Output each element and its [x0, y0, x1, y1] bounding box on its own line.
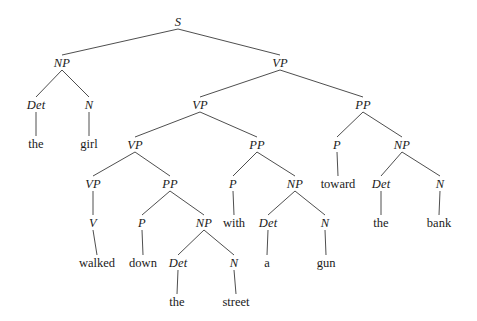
tree-edge: [62, 29, 178, 55]
tree-edge: [62, 70, 89, 97]
tree-node-det: Det: [27, 99, 46, 112]
tree-node-n: N: [436, 178, 445, 191]
tree-node-np: NP: [394, 139, 410, 152]
tree-edge: [381, 152, 402, 176]
tree-node-n: N: [85, 99, 94, 112]
tree-edge: [93, 152, 135, 176]
tree-edge: [233, 191, 234, 215]
tree-edge: [200, 112, 257, 137]
tree-node-n: N: [230, 257, 239, 270]
tree-edge: [204, 230, 234, 255]
tree-terminal-down: down: [129, 257, 157, 270]
tree-terminal-walked: walked: [79, 257, 115, 270]
tree-node-p: P: [138, 217, 146, 230]
parse-tree-diagram: SNPVPDetNthegirlVPPPVPPPPNPVPPPPNPtoward…: [0, 0, 477, 321]
tree-node-p: P: [229, 178, 237, 191]
tree-edge: [93, 230, 97, 255]
tree-edge: [267, 230, 268, 255]
tree-node-vp: VP: [192, 99, 208, 112]
tree-edge: [363, 112, 402, 137]
tree-node-v: V: [89, 217, 97, 230]
tree-edge: [402, 152, 440, 176]
tree-terminal-with: with: [223, 217, 245, 230]
tree-edge: [142, 230, 143, 255]
tree-node-pp: PP: [355, 99, 371, 112]
tree-terminal-the: the: [373, 217, 388, 230]
tree-node-np: NP: [196, 217, 212, 230]
tree-terminal-toward: toward: [321, 178, 356, 191]
tree-edge: [337, 152, 338, 176]
tree-edge: [178, 29, 280, 55]
tree-edge: [142, 191, 170, 215]
tree-edge: [178, 230, 204, 255]
tree-edge: [170, 191, 204, 215]
tree-edge: [234, 270, 236, 294]
tree-edge: [135, 152, 170, 176]
tree-node-p: P: [333, 139, 341, 152]
tree-edge: [200, 70, 280, 97]
tree-edge: [36, 70, 62, 97]
tree-node-np: NP: [287, 178, 303, 191]
tree-node-det: Det: [259, 217, 278, 230]
tree-terminal-bank: bank: [427, 217, 451, 230]
tree-node-vp: VP: [85, 178, 101, 191]
tree-edge: [337, 112, 363, 137]
tree-node-vp: VP: [272, 57, 288, 70]
tree-edge: [295, 191, 325, 215]
tree-edge: [280, 70, 363, 97]
tree-edge: [257, 152, 295, 176]
tree-edge: [177, 270, 178, 294]
tree-edge: [135, 112, 200, 137]
tree-node-det: Det: [169, 257, 188, 270]
tree-terminal-street: street: [222, 296, 249, 309]
tree-terminal-gun: gun: [317, 257, 336, 270]
tree-terminal-girl: girl: [80, 138, 97, 151]
tree-edge: [325, 230, 326, 255]
tree-node-pp: PP: [162, 178, 178, 191]
tree-edge: [233, 152, 257, 176]
tree-node-np: NP: [54, 57, 70, 70]
tree-node-det: Det: [372, 178, 391, 191]
tree-edge: [439, 191, 440, 215]
tree-node-vp: VP: [127, 139, 143, 152]
tree-terminal-the: the: [169, 296, 184, 309]
tree-terminal-a: a: [264, 257, 270, 270]
tree-edge: [268, 191, 295, 215]
tree-node-s: S: [175, 16, 181, 29]
tree-node-n: N: [321, 217, 330, 230]
tree-node-pp: PP: [249, 139, 265, 152]
tree-edges-layer: [0, 0, 477, 321]
tree-terminal-the: the: [28, 138, 43, 151]
